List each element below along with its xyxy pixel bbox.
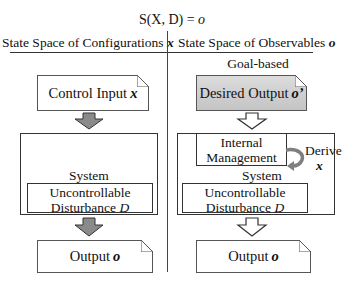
- goal-based-caption: Goal-based: [172, 56, 344, 72]
- derive-var: x: [316, 158, 323, 174]
- down-arrow-outline-icon: [235, 217, 269, 237]
- internal-line2: Management: [197, 150, 286, 165]
- disturbance-line2: Disturbance D: [183, 200, 307, 215]
- folded-corner-icon: [137, 75, 149, 87]
- header-divider: [10, 52, 313, 53]
- header-left-text: State Space of Configurations: [2, 35, 167, 50]
- equation-title: S(X, D) = o: [0, 12, 344, 28]
- down-arrow-icon: [72, 217, 106, 237]
- equation-var: o: [198, 12, 205, 27]
- derive-label: Derive: [305, 143, 343, 159]
- control-input-label: Control Input: [49, 85, 128, 102]
- disturbance-box-right: Uncontrollable Disturbance D: [182, 183, 308, 213]
- output-box-left: Output o: [37, 240, 153, 273]
- disturbance-box-left: Uncontrollable Disturbance D: [27, 183, 153, 213]
- output-var: o: [113, 248, 120, 265]
- equation-prefix: S(X, D) =: [139, 12, 198, 27]
- disturbance-line1: Uncontrollable: [183, 185, 307, 200]
- output-label: Output: [70, 248, 110, 265]
- header-right: State Space of Observables o: [178, 35, 335, 51]
- internal-management-box: Internal Management: [196, 133, 287, 166]
- header-right-text: State Space of Observables: [178, 35, 329, 50]
- control-input-box: Control Input x: [37, 75, 149, 111]
- control-input-var: x: [130, 85, 137, 102]
- folded-corner-icon: [299, 240, 311, 252]
- header-left: State Space of Configurations x: [2, 35, 174, 51]
- disturbance-line1: Uncontrollable: [28, 185, 152, 200]
- output-box-right: Output o: [196, 240, 311, 273]
- output-label: Output: [228, 248, 268, 265]
- output-var: o: [272, 248, 279, 265]
- disturbance-line2: Disturbance D: [28, 200, 152, 215]
- down-arrow-outline-icon: [235, 112, 269, 130]
- column-divider: [167, 31, 168, 272]
- desired-output-var: o’: [291, 85, 303, 102]
- down-arrow-icon: [72, 112, 106, 130]
- desired-output-box: Desired Output o’: [196, 75, 307, 111]
- header-right-var: o: [329, 35, 336, 50]
- desired-output-label: Desired Output: [199, 85, 288, 102]
- system-label-right: System: [222, 168, 302, 184]
- system-label-left: System: [20, 168, 158, 184]
- folded-corner-icon: [295, 75, 307, 87]
- internal-line1: Internal: [197, 135, 286, 150]
- folded-corner-icon: [141, 240, 153, 252]
